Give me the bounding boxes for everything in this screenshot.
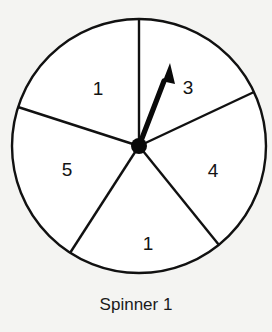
sector-label-top-right: 3 (183, 77, 194, 98)
spinner-pivot-hub[interactable] (131, 138, 147, 154)
sector-label-left: 5 (62, 159, 73, 180)
figure-caption: Spinner 1 (100, 295, 173, 314)
sector-label-right: 4 (208, 160, 219, 181)
spinner-diagram: 1 5 1 4 3 Spinner 1 (0, 0, 272, 332)
spinner-figure: 1 5 1 4 3 Spinner 1 (0, 0, 272, 332)
sector-label-bottom: 1 (143, 233, 154, 254)
sector-label-top-left: 1 (93, 78, 104, 99)
